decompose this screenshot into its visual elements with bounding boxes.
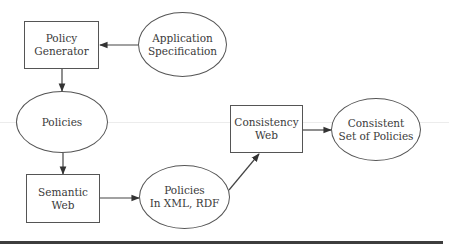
node-label: Semantic Web bbox=[38, 186, 88, 212]
node-label: Policy Generator bbox=[34, 32, 88, 58]
node-application-specification: Application Specification bbox=[138, 12, 227, 77]
node-policies: Policies bbox=[16, 91, 108, 153]
node-consistency-web: Consistency Web bbox=[230, 105, 303, 153]
node-label: Policies bbox=[42, 116, 83, 129]
node-label: Consistent Set of Policies bbox=[338, 117, 413, 143]
node-policy-generator: Policy Generator bbox=[24, 21, 99, 69]
node-label: Application Specification bbox=[148, 32, 217, 58]
arrow-policies-xml-rdf-to-consistency-web bbox=[229, 154, 259, 190]
node-policies-xml-rdf: Policies In XML, RDF bbox=[139, 165, 230, 229]
node-consistent-set-of-policies: Consistent Set of Policies bbox=[331, 98, 421, 161]
bottom-rule-divider bbox=[0, 241, 443, 244]
policy-flow-diagram: Policy Generator Application Specificati… bbox=[0, 0, 449, 247]
node-label: Policies In XML, RDF bbox=[150, 184, 220, 210]
node-semantic-web: Semantic Web bbox=[26, 174, 100, 223]
node-label: Consistency Web bbox=[234, 116, 298, 142]
